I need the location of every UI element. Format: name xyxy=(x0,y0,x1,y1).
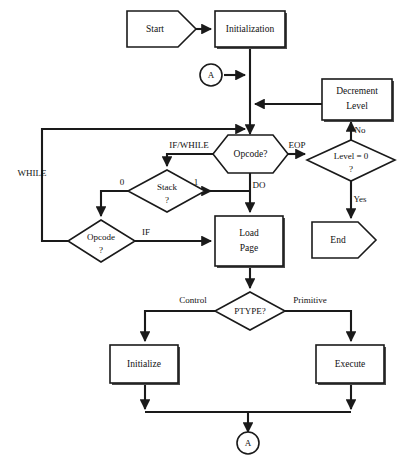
edge-label-while: WHILE xyxy=(18,168,47,178)
node-connector-a-bottom: A xyxy=(237,432,259,454)
stack-question-mark: ? xyxy=(165,195,169,205)
edge-label-eop: EOP xyxy=(288,140,305,150)
decrement-level-label-line2: Level xyxy=(346,101,368,111)
decrement-level-label-line1: Decrement xyxy=(336,86,378,96)
stack-label: Stack xyxy=(157,182,177,192)
level-zero-label: Level = 0 xyxy=(334,151,369,161)
node-end: End xyxy=(312,222,376,258)
node-execute: Execute xyxy=(316,345,386,385)
start-label: Start xyxy=(146,24,164,34)
execute-label: Execute xyxy=(335,359,366,369)
edge-ptype-control-to-initialize xyxy=(145,311,215,341)
initialization-label: Initialization xyxy=(226,24,275,34)
node-opcode-left: Opcode ? xyxy=(68,220,135,262)
connector-a-top-label: A xyxy=(208,70,215,80)
load-page-shape xyxy=(215,216,283,266)
edge-stack-zero-to-opcode-left xyxy=(101,191,128,216)
opcode-main-label: Opcode? xyxy=(234,149,268,159)
edge-label-stack-one: 1 xyxy=(194,177,199,187)
node-initialization: Initialization xyxy=(215,11,287,49)
edge-label-control: Control xyxy=(179,295,207,305)
node-decrement-level: Decrement Level xyxy=(322,79,394,122)
node-ptype: PTYPE? xyxy=(215,292,285,330)
flowchart-canvas: Start Initialization A Decrement Level O… xyxy=(0,0,397,465)
flowchart-diagram: Start Initialization A Decrement Level O… xyxy=(0,0,397,465)
end-label: End xyxy=(330,235,346,245)
node-load-page: Load Page xyxy=(215,216,285,268)
edge-label-if: IF xyxy=(142,227,150,237)
edge-ptype-primitive-to-execute xyxy=(285,311,351,341)
edge-label-stack-zero: 0 xyxy=(120,177,125,187)
node-connector-a-top: A xyxy=(200,64,222,86)
opcode-left-question-mark: ? xyxy=(99,245,103,255)
opcode-left-label: Opcode xyxy=(87,232,115,242)
edge-label-primitive: Primitive xyxy=(293,295,327,305)
level-zero-question-mark: ? xyxy=(349,164,353,174)
node-start: Start xyxy=(127,11,196,47)
node-opcode-main: Opcode? xyxy=(213,135,288,173)
load-page-label-line2: Page xyxy=(240,243,258,253)
edge-label-if-while: IF/WHILE xyxy=(169,140,209,150)
decrement-level-shape xyxy=(322,79,392,120)
node-initialize: Initialize xyxy=(110,345,180,385)
initialize-label: Initialize xyxy=(127,359,161,369)
edge-label-no: No xyxy=(355,125,366,135)
connector-a-bottom-label: A xyxy=(245,438,252,448)
load-page-label-line1: Load xyxy=(239,228,259,238)
node-level-zero: Level = 0 ? xyxy=(307,140,395,181)
edge-label-do: DO xyxy=(253,180,266,190)
edge-opcode-ifwhile-to-stack xyxy=(167,154,213,166)
ptype-label: PTYPE? xyxy=(234,306,266,316)
edge-label-yes: Yes xyxy=(353,194,367,204)
